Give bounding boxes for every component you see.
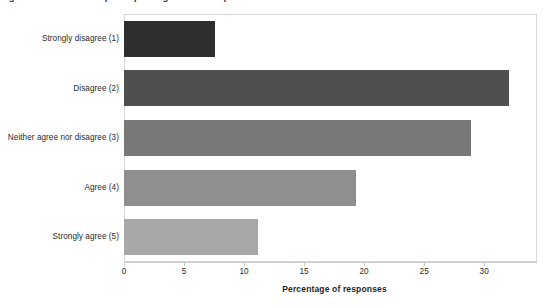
y-axis-tick-label: Disagree (2) xyxy=(0,64,119,114)
bar-row xyxy=(124,212,537,262)
bar xyxy=(124,21,215,57)
x-axis-tick xyxy=(304,262,305,266)
x-axis-tick-label: 10 xyxy=(239,267,248,276)
y-axis-tick-label: Strongly agree (5) xyxy=(0,212,119,262)
x-axis-tick xyxy=(364,262,365,266)
bar-row xyxy=(124,14,537,64)
x-axis-tick-label: 20 xyxy=(360,267,369,276)
x-axis-tick xyxy=(184,262,185,266)
bar-row xyxy=(124,64,537,114)
bar-row xyxy=(124,163,537,213)
x-axis-tick-label: 0 xyxy=(122,267,127,276)
x-axis-tick-label: 5 xyxy=(182,267,187,276)
x-axis-title: Percentage of responses xyxy=(0,284,549,294)
bar-chart: Strongly disagree (1)Disagree (2)Neither… xyxy=(0,0,549,308)
y-axis-category-labels: Strongly disagree (1)Disagree (2)Neither… xyxy=(0,14,119,262)
x-axis-tick xyxy=(124,262,125,266)
x-axis-tick xyxy=(244,262,245,266)
bar-series xyxy=(124,14,537,262)
bar xyxy=(124,120,471,156)
x-axis-tick-label: 15 xyxy=(300,267,309,276)
bar xyxy=(124,170,356,206)
bar xyxy=(124,219,258,255)
x-axis-line xyxy=(124,262,537,263)
bar xyxy=(124,70,509,106)
x-axis-tick-label: 30 xyxy=(480,267,489,276)
x-axis-title-text: Percentage of responses xyxy=(162,284,387,294)
y-axis-tick-label: Agree (4) xyxy=(0,163,119,213)
y-axis-tick-label: Strongly disagree (1) xyxy=(0,14,119,64)
y-axis-tick-label: Neither agree nor disagree (3) xyxy=(0,113,119,163)
bar-row xyxy=(124,113,537,163)
x-axis-tick xyxy=(484,262,485,266)
x-axis-tick xyxy=(424,262,425,266)
chart-screenshot: Figure: Distribution of participant agre… xyxy=(0,0,549,308)
x-axis-tick-label: 25 xyxy=(420,267,429,276)
